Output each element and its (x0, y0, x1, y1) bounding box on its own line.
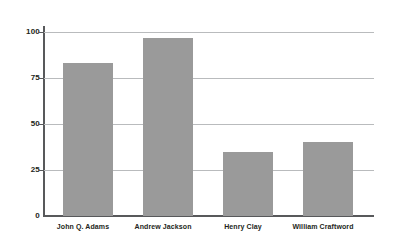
bar-william-craftword (303, 142, 353, 216)
bar-john-q-adams (63, 63, 113, 216)
y-axis-tick-label-100: 100 (12, 28, 40, 36)
y-axis-tick-label-50: 50 (12, 120, 40, 128)
x-axis-label-william-craftword: William Craftword (268, 222, 378, 231)
gridline-100 (44, 32, 374, 33)
bar-andrew-jackson (143, 38, 193, 217)
bar-henry-clay (223, 152, 273, 216)
y-axis-tick-label-0: 0 (12, 212, 40, 220)
y-axis-tick-label-75: 75 (12, 74, 40, 82)
bar-chart-figure: 100 75 50 25 0 John Q. Adams Andrew Jack… (0, 0, 396, 250)
plot-area (44, 26, 374, 216)
y-axis-tick-label-25: 25 (12, 166, 40, 174)
